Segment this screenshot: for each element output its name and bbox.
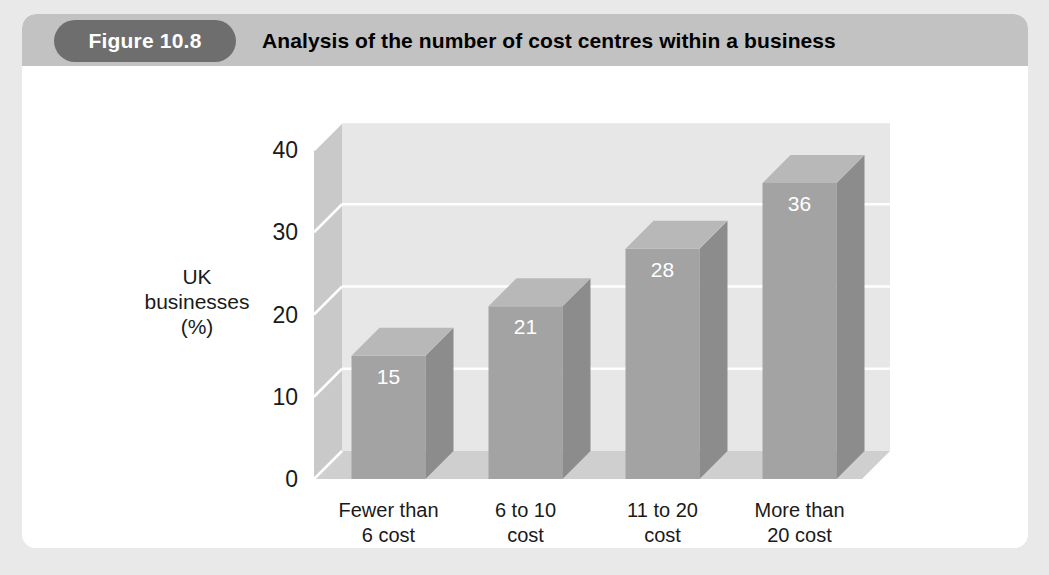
y-axis-title-line-1: businesses <box>144 290 249 313</box>
y-axis-title-line-0: UK <box>182 265 211 288</box>
bar-side-1 <box>563 278 591 479</box>
bar-side-3 <box>837 155 865 479</box>
bar-side-2 <box>700 221 728 479</box>
category-label-3-line-0: More than <box>754 499 844 521</box>
category-label-2-line-0: 11 to 20 <box>627 499 698 521</box>
figure-body: 010203040UKbusinesses(%)15Fewer than6 co… <box>22 66 1028 548</box>
figure-header-band: Figure 10.8 Analysis of the number of co… <box>22 14 1028 66</box>
bar-value-label-0: 15 <box>377 365 400 388</box>
figure-card: Figure 10.8 Analysis of the number of co… <box>22 14 1028 548</box>
y-axis-title-line-2: (%) <box>181 315 214 338</box>
category-label-0-line-1: 6 cost <box>362 524 416 546</box>
y-tick-label-10: 10 <box>272 384 298 410</box>
y-tick-label-0: 0 <box>285 466 298 492</box>
bar-chart-3d: 010203040UKbusinesses(%)15Fewer than6 co… <box>22 66 1028 548</box>
bar-value-label-1: 21 <box>514 315 537 338</box>
y-tick-label-40: 40 <box>272 137 298 163</box>
y-tick-label-20: 20 <box>272 302 298 328</box>
category-label-1-line-0: 6 to 10 <box>495 499 556 521</box>
bar-front-3 <box>763 183 837 479</box>
category-label-0-line-0: Fewer than <box>338 499 438 521</box>
bar-value-label-2: 28 <box>651 258 674 281</box>
category-label-3-line-1: 20 cost <box>767 524 832 546</box>
figure-number-badge: Figure 10.8 <box>54 20 236 62</box>
y-tick-label-30: 30 <box>272 219 298 245</box>
bar-value-label-3: 36 <box>788 192 811 215</box>
bar-front-2 <box>626 249 700 479</box>
category-label-1-line-1: cost <box>507 524 544 546</box>
category-label-2-line-1: cost <box>644 524 681 546</box>
page-root: Figure 10.8 Analysis of the number of co… <box>0 0 1049 575</box>
figure-title: Analysis of the number of cost centres w… <box>262 20 836 62</box>
